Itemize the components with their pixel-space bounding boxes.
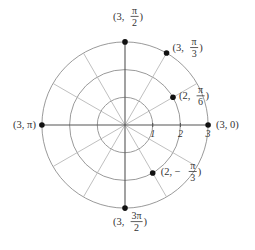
polar-coordinate-diagram: 123 (3, 0)(3,π3)(3,π2)(2,π6)(3, π)(3,3π2…	[0, 0, 255, 250]
point-3-3pi2	[122, 205, 128, 211]
tick-label-1: 1	[150, 128, 155, 139]
point-3-pi3	[164, 50, 170, 56]
point-label-3-0: (3, 0)	[216, 119, 239, 131]
fraction-denominator: 3	[190, 172, 195, 183]
point-label-3-pi2: (3,π2)	[113, 5, 144, 28]
label-suffix: )	[140, 11, 144, 23]
label-suffix: )	[144, 216, 148, 228]
point-labels: (3, 0)(3,π3)(3,π2)(2,π6)(3, π)(3,3π2)(2,…	[13, 5, 239, 233]
fraction-denominator: 6	[198, 96, 203, 107]
point-2-neg-pi3	[150, 170, 156, 176]
label-prefix: (3,	[113, 216, 124, 228]
label-prefix: (3,	[173, 42, 184, 54]
fraction-numerator: π	[132, 5, 137, 16]
spoke-300deg	[125, 125, 167, 197]
label-text: (3, π)	[13, 119, 36, 131]
fraction-numerator: π	[198, 84, 203, 95]
label-prefix: (2, −	[161, 166, 181, 178]
fraction-numerator: 3π	[132, 210, 142, 221]
spoke-60deg	[125, 53, 167, 125]
tick-label-2: 2	[178, 128, 183, 139]
label-prefix: (3,	[113, 11, 124, 23]
spoke-330deg	[125, 125, 197, 167]
point-3-pi2	[122, 39, 128, 45]
polar-axes	[42, 42, 208, 208]
point-label-3-3pi2: (3,3π2)	[113, 210, 148, 233]
fraction-numerator: π	[192, 36, 197, 47]
point-3-0	[205, 122, 211, 128]
point-label-3-pi3: (3,π3)	[173, 36, 204, 59]
spoke-120deg	[83, 53, 125, 125]
spoke-150deg	[53, 83, 125, 125]
spoke-240deg	[83, 125, 125, 197]
point-label-2-neg-pi3: (2, −π3)	[161, 160, 202, 183]
label-text: (3, 0)	[216, 119, 239, 131]
label-suffix: )	[199, 42, 203, 54]
fraction-denominator: 2	[134, 222, 139, 233]
point-3-pi	[39, 122, 45, 128]
label-prefix: (2,	[179, 90, 190, 102]
spoke-210deg	[53, 125, 125, 167]
label-suffix: )	[206, 90, 210, 102]
fraction-numerator: π	[190, 160, 195, 171]
point-label-3-pi: (3, π)	[13, 119, 36, 131]
fraction-denominator: 2	[132, 17, 137, 28]
tick-label-3: 3	[205, 128, 211, 139]
label-suffix: )	[198, 166, 202, 178]
fraction-denominator: 3	[192, 48, 197, 59]
point-2-pi6	[170, 95, 176, 101]
